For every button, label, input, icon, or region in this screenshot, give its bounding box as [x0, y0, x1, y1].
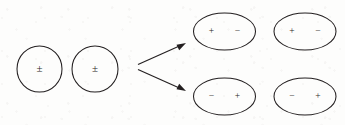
charge-label-right: − [315, 26, 320, 36]
ellipse-outline [274, 78, 336, 115]
charge-label-plusminus: ± [36, 62, 42, 74]
source-particle-group: ± ± [17, 46, 118, 92]
dipole-top-right: + − [274, 13, 336, 50]
ellipse-outline [194, 78, 256, 115]
dipole-bottom-right: − + [274, 78, 336, 115]
charge-label-right: + [315, 91, 320, 101]
dipole-bottom-left: − + [194, 78, 256, 115]
source-circle-1: ± [17, 46, 62, 92]
arrow-group [138, 43, 186, 91]
ellipse-outline [194, 13, 256, 50]
dipole-group: + − + − − + − + [194, 13, 337, 115]
arrow-upper [138, 43, 186, 65]
charge-label-left: + [209, 26, 214, 36]
charge-label-plusminus: ± [92, 62, 98, 74]
arrow-shaft [138, 46, 181, 65]
charge-label-right: + [235, 91, 240, 101]
source-circle-2: ± [72, 46, 118, 92]
dipole-top-left: + − [194, 13, 256, 50]
diagram-canvas: ± ± + − [0, 0, 345, 125]
arrow-head-icon [177, 43, 187, 50]
charge-label-left: − [209, 91, 214, 101]
arrow-lower [138, 70, 186, 92]
charge-label-left: + [289, 26, 294, 36]
charge-label-right: − [235, 26, 240, 36]
arrow-shaft [138, 70, 181, 89]
charge-label-left: − [289, 91, 294, 101]
ellipse-outline [274, 13, 336, 50]
arrow-head-icon [177, 84, 187, 91]
diagram-svg: ± ± + − [0, 0, 345, 125]
